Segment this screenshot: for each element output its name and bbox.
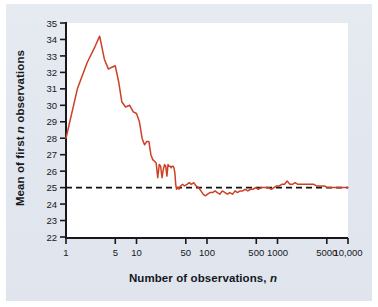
y-tick-label: 34: [46, 34, 57, 45]
y-axis-title-part2: observations: [14, 50, 26, 123]
y-tick-label: 25: [46, 182, 57, 193]
y-tick-label: 29: [46, 116, 57, 127]
y-tick-label: 32: [46, 67, 57, 78]
y-axis-title-italic-n: n: [14, 126, 26, 133]
y-tick-label: 28: [46, 133, 57, 144]
x-tick-label: 10,000: [333, 247, 362, 258]
x-axis-title-italic-n: n: [270, 272, 277, 284]
x-tick-label: 50: [180, 247, 191, 258]
y-tick-label: 30: [46, 100, 57, 111]
y-tick-label: 22: [46, 232, 57, 243]
x-tick-label: 1: [63, 247, 68, 258]
x-tick-label: 10: [131, 247, 142, 258]
plot-area-background: [66, 23, 348, 237]
y-tick-label: 35: [46, 18, 57, 29]
figure-root: 2223242526272829303132333435 15105010050…: [0, 0, 378, 307]
y-tick-label: 33: [46, 51, 57, 62]
y-axis-title: Mean of first n observations: [14, 33, 26, 223]
y-axis-title-part1: Mean of first: [14, 136, 26, 206]
y-tick-label: 31: [46, 83, 57, 94]
line-chart: 2223242526272829303132333435 15105010050…: [0, 0, 378, 307]
x-axis-title-text: Number of observations,: [129, 272, 267, 284]
y-tick-label: 26: [46, 166, 57, 177]
x-tick-label: 5: [113, 247, 118, 258]
x-tick-label: 100: [199, 247, 215, 258]
y-tick-label: 27: [46, 149, 57, 160]
y-axis-tick-labels: 2223242526272829303132333435: [46, 18, 57, 243]
x-tick-label: 1000: [267, 247, 288, 258]
x-axis-title: Number of observations, n: [55, 272, 351, 284]
y-tick-label: 24: [46, 199, 57, 210]
y-tick-label: 23: [46, 215, 57, 226]
x-axis-tick-labels: 1510501005001000500010,000: [63, 247, 362, 258]
x-tick-label: 500: [248, 247, 264, 258]
